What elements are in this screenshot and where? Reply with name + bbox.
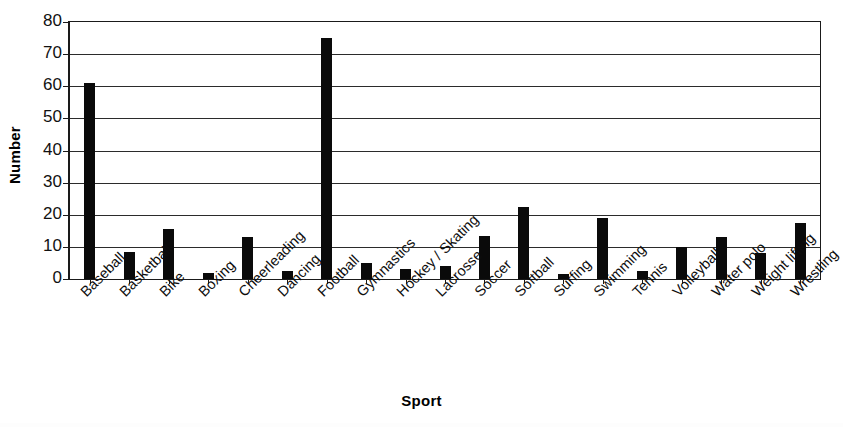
y-axis-tick-mark [63,22,70,23]
bar [84,83,95,279]
y-axis-tick-label: 30 [26,173,62,190]
gridline [70,183,820,184]
x-axis-title: Sport [0,392,843,409]
gridline [70,151,820,152]
scan-edge [0,423,843,427]
gridline [70,54,820,55]
x-axis-category-labels: BaseballBasketballBikeBoxingCheerleading… [68,279,843,389]
y-axis-tick-mark [63,215,70,216]
y-axis-tick-mark [63,183,70,184]
bar [518,207,529,279]
gridline [70,86,820,87]
y-axis-tick-label: 50 [26,108,62,125]
gridline [70,215,820,216]
y-axis-tick-label: 80 [26,12,62,29]
y-axis-tick-label: 40 [26,141,62,158]
y-axis-tick-label: 20 [26,205,62,222]
y-axis-tick-mark [63,86,70,87]
gridline [70,118,820,119]
y-axis-tick-labels: 01020304050607080 [24,0,62,427]
y-axis-tick-label: 70 [26,44,62,61]
bar [597,218,608,279]
y-axis-tick-label: 0 [26,269,62,286]
bar [321,38,332,279]
bar-chart: Number 01020304050607080 BaseballBasketb… [0,0,843,427]
y-axis-tick-mark [63,54,70,55]
y-axis-tick-mark [63,247,70,248]
y-axis-tick-label: 10 [26,237,62,254]
y-axis-tick-mark [63,151,70,152]
y-axis-tick-mark [63,118,70,119]
y-axis-tick-label: 60 [26,76,62,93]
